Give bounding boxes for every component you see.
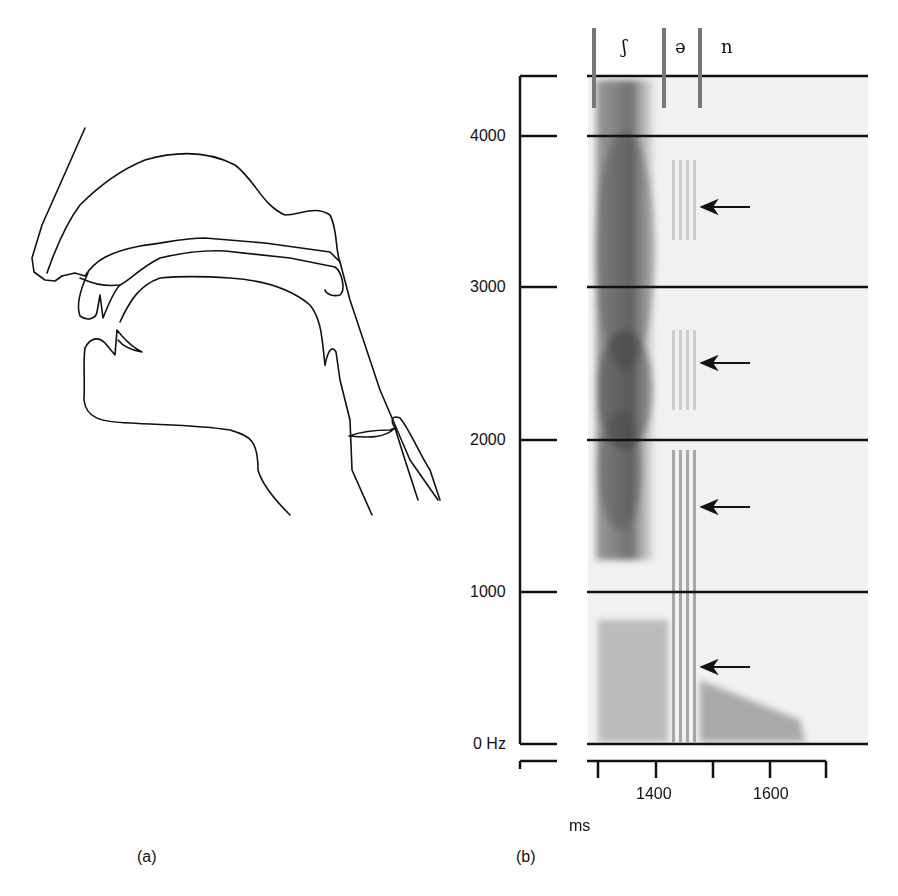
y-tick-4000: 4000: [470, 127, 506, 145]
segment-label-esh: ʃ: [622, 36, 627, 57]
y-tick-0: 0 Hz: [473, 735, 506, 753]
x-tick-1600: 1600: [753, 785, 789, 803]
x-tick-1400: 1400: [636, 785, 672, 803]
y-tick-1000: 1000: [470, 583, 506, 601]
panel-b-label: (b): [516, 848, 536, 866]
segment-label-schwa: ə: [675, 36, 686, 57]
y-tick-2000: 2000: [470, 431, 506, 449]
y-tick-3000: 3000: [470, 278, 506, 296]
segment-label-n: n: [721, 36, 733, 57]
x-axis-unit: ms: [569, 817, 590, 835]
spectrogram-figure: [0, 0, 898, 896]
